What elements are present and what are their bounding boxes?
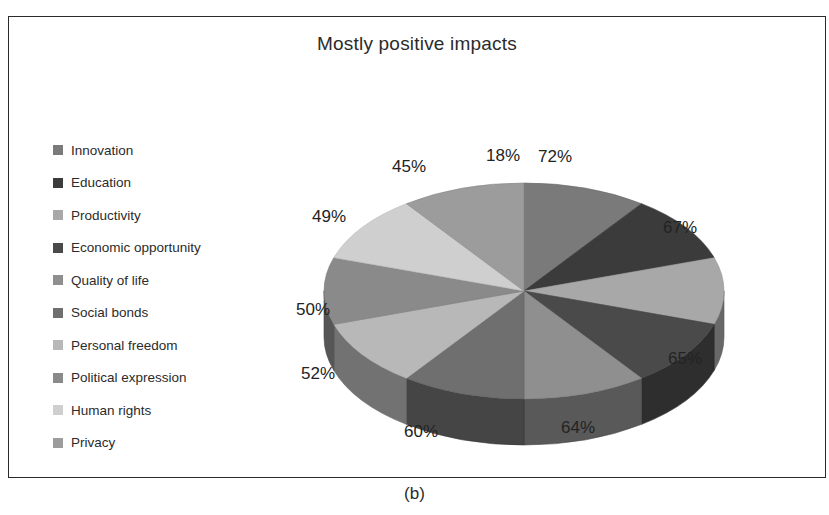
legend-label: Social bonds (71, 305, 148, 320)
pie-value-label: 49% (312, 207, 346, 227)
legend-label: Innovation (71, 143, 133, 158)
legend-item-political-expression[interactable]: Political expression (53, 362, 263, 395)
legend-swatch-icon (53, 405, 63, 415)
legend-label: Human rights (71, 403, 151, 418)
pie-value-label: 18% (486, 146, 520, 166)
legend-swatch-icon (53, 275, 63, 285)
legend-swatch-icon (53, 178, 63, 188)
pie-chart: 72%67%65%64%60%52%50%49%45%18% (296, 141, 756, 471)
pie-value-label: 72% (538, 147, 572, 167)
chart-legend: Innovation Education Productivity Econom… (53, 134, 263, 459)
legend-label: Productivity (71, 208, 141, 223)
pie-value-label: 45% (392, 157, 426, 177)
legend-label: Privacy (71, 435, 115, 450)
legend-item-education[interactable]: Education (53, 167, 263, 200)
legend-item-personal-freedom[interactable]: Personal freedom (53, 329, 263, 362)
legend-item-human-rights[interactable]: Human rights (53, 394, 263, 427)
pie-value-label: 65% (668, 349, 702, 369)
figure-frame: Mostly positive impacts Innovation Educa… (8, 16, 826, 478)
legend-item-innovation[interactable]: Innovation (53, 134, 263, 167)
legend-label: Quality of life (71, 273, 149, 288)
chart-title: Mostly positive impacts (9, 33, 825, 55)
legend-swatch-icon (53, 210, 63, 220)
legend-label: Political expression (71, 370, 187, 385)
page-bleed-artifact (395, 0, 435, 8)
legend-label: Education (71, 175, 131, 190)
legend-swatch-icon (53, 243, 63, 253)
figure-caption: (b) (0, 484, 829, 504)
legend-item-productivity[interactable]: Productivity (53, 199, 263, 232)
legend-item-social-bonds[interactable]: Social bonds (53, 297, 263, 330)
legend-swatch-icon (53, 340, 63, 350)
pie-value-label: 52% (301, 364, 335, 384)
legend-item-privacy[interactable]: Privacy (53, 427, 263, 460)
pie-value-label: 64% (561, 418, 595, 438)
pie-value-label: 60% (404, 422, 438, 442)
pie-value-label: 67% (663, 218, 697, 238)
legend-swatch-icon (53, 438, 63, 448)
pie-value-label: 50% (296, 300, 330, 320)
legend-item-economic-opportunity[interactable]: Economic opportunity (53, 232, 263, 265)
legend-swatch-icon (53, 373, 63, 383)
pie-chart-svg (296, 141, 756, 471)
legend-label: Economic opportunity (71, 240, 201, 255)
legend-item-quality-of-life[interactable]: Quality of life (53, 264, 263, 297)
legend-label: Personal freedom (71, 338, 178, 353)
legend-swatch-icon (53, 308, 63, 318)
legend-swatch-icon (53, 145, 63, 155)
